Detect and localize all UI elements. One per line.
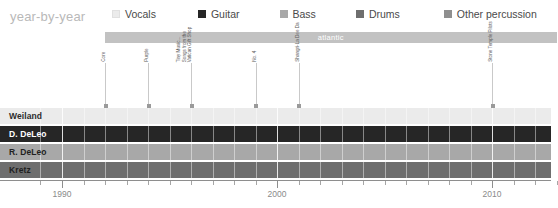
legend-item-drums[interactable]: Drums — [356, 9, 400, 20]
axis-tick-minor — [363, 181, 364, 185]
release-label: Stone Temple Pilots — [488, 21, 494, 62]
member-name-label: Kretz — [9, 165, 31, 175]
release-label: Purple — [144, 49, 150, 62]
axis-tick-minor — [449, 181, 450, 185]
square-swatch-icon — [444, 10, 452, 18]
axis-tick-minor — [557, 181, 558, 185]
release-label: Shangri-La Dee Da — [295, 23, 301, 62]
axis-tick-minor — [234, 181, 235, 185]
member-name-label: D. DeLeo — [9, 129, 47, 139]
chart-header: year-by-year VocalsGuitarBassDrumsOther … — [0, 0, 551, 28]
release-marker[interactable]: Shangri-La Dee Da — [299, 46, 300, 108]
legend-label: Other percussion — [457, 9, 537, 20]
release-marker[interactable]: No. 4 — [256, 46, 257, 108]
member-activity-bar — [0, 108, 551, 124]
axis-tick-minor — [385, 181, 386, 185]
axis-tick-minor — [535, 181, 536, 185]
release-marker[interactable]: Tiny Music...Songs from theVatican Gift … — [191, 46, 192, 108]
axis-tick-minor — [213, 181, 214, 185]
release-marker[interactable]: Purple — [148, 46, 149, 108]
axis-tick-minor — [428, 181, 429, 185]
gridline — [557, 108, 558, 180]
legend-label: Guitar — [211, 9, 240, 20]
axis-tick-minor — [105, 181, 106, 185]
axis-tick-minor — [191, 181, 192, 185]
member-row[interactable]: Weiland — [0, 108, 551, 124]
legend-label: Bass — [293, 9, 316, 20]
member-activity-bar — [0, 162, 551, 178]
member-name-label: R. DeLeo — [9, 147, 47, 157]
axis-tick-minor — [170, 181, 171, 185]
member-name-label: Weiland — [9, 111, 42, 121]
legend-item-guitar[interactable]: Guitar — [198, 9, 240, 20]
member-activity-bar — [0, 144, 551, 160]
axis-tick-minor — [471, 181, 472, 185]
release-markers: CorePurpleTiny Music...Songs from theVat… — [0, 46, 551, 108]
release-marker[interactable]: Core — [105, 46, 106, 108]
square-swatch-icon — [112, 10, 120, 18]
axis-tick-minor — [148, 181, 149, 185]
axis-tick-label: 2010 — [483, 189, 502, 199]
axis-tick-minor — [320, 181, 321, 185]
member-row[interactable]: D. DeLeo — [0, 126, 551, 142]
axis-tick-minor — [342, 181, 343, 185]
square-swatch-icon — [280, 10, 288, 18]
axis-tick-major — [492, 181, 493, 188]
legend-item-other-percussion[interactable]: Other percussion — [444, 9, 537, 20]
release-stem — [191, 63, 192, 105]
member-row[interactable]: R. DeLeo — [0, 144, 551, 160]
period-band-label: atlantic — [318, 33, 344, 42]
axis-tick-minor — [40, 181, 41, 185]
time-axis: 199020002010 — [0, 180, 551, 208]
legend: VocalsGuitarBassDrumsOther percussion — [112, 9, 537, 20]
square-swatch-icon — [356, 10, 364, 18]
member-row[interactable]: Kretz — [0, 162, 551, 178]
release-label: Core — [101, 52, 107, 62]
release-stem — [492, 63, 493, 105]
member-activity-bar — [0, 126, 551, 142]
axis-tick-minor — [256, 181, 257, 185]
release-marker[interactable]: Stone Temple Pilots — [492, 46, 493, 108]
legend-label: Vocals — [125, 9, 156, 20]
chart-title: year-by-year — [10, 9, 85, 24]
release-stem — [148, 63, 149, 105]
release-stem — [105, 63, 106, 105]
axis-tick-minor — [127, 181, 128, 185]
square-swatch-icon — [198, 10, 206, 18]
legend-item-bass[interactable]: Bass — [280, 9, 316, 20]
release-stem — [299, 63, 300, 105]
legend-item-vocals[interactable]: Vocals — [112, 9, 156, 20]
axis-tick-label: 2000 — [268, 189, 287, 199]
axis-tick-major — [277, 181, 278, 188]
legend-label: Drums — [369, 9, 400, 20]
axis-tick-minor — [406, 181, 407, 185]
release-label: No. 4 — [252, 51, 258, 62]
axis-tick-major — [62, 181, 63, 188]
member-rows: WeilandD. DeLeoR. DeLeoKretz — [0, 108, 551, 180]
axis-tick-label: 1990 — [53, 189, 72, 199]
axis-tick-minor — [299, 181, 300, 185]
release-label: Tiny Music...Songs from theVatican Gift … — [176, 27, 193, 62]
axis-tick-minor — [84, 181, 85, 185]
axis-tick-minor — [514, 181, 515, 185]
release-stem — [256, 63, 257, 105]
